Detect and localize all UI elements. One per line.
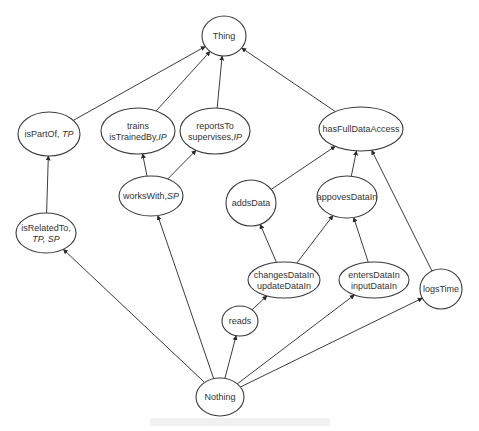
node-label: updateDataIn	[257, 281, 311, 291]
node-hasFullDataAccess: hasFullDataAccess	[319, 107, 403, 151]
node-label: logsTime	[423, 284, 459, 294]
node-label: TP, SP	[32, 234, 59, 244]
node-label: changesDataIn	[254, 270, 315, 280]
edge-changesDataIn-to-addsData	[260, 224, 276, 262]
node-label: addsData	[232, 198, 271, 208]
node-label: Thing	[213, 31, 236, 41]
node-entersDataIn: entersDataIninputDataIn	[339, 262, 409, 298]
node-label: worksWith,SP	[122, 191, 179, 201]
edge-reportsTo-to-thing	[217, 56, 222, 108]
node-label: appovesDataIn	[317, 192, 378, 202]
node-logsTime: logsTime	[420, 269, 462, 309]
edge-isRelatedTo-to-isPartOf	[47, 156, 49, 213]
node-reads: reads	[222, 306, 258, 336]
node-label: inputDataIn	[351, 281, 397, 291]
edge-appovesDataIn-to-hasFullDataAccess	[351, 151, 356, 176]
node-label: supervises,IP	[188, 132, 242, 142]
node-thing: Thing	[202, 16, 246, 56]
edge-trains-to-thing	[156, 51, 210, 111]
edge-nothing-to-reads	[225, 336, 236, 379]
figure-caption-faded	[150, 418, 330, 426]
node-isRelatedTo: isRelatedTo,TP, SP	[16, 213, 76, 253]
edge-worksWith-to-trains	[143, 154, 147, 176]
node-appovesDataIn: appovesDataIn	[317, 176, 378, 218]
node-label: isRelatedTo,	[21, 223, 71, 233]
node-addsData: addsData	[226, 180, 276, 226]
node-label: reportsTo	[196, 121, 234, 131]
edge-entersDataIn-to-appovesDataIn	[354, 217, 369, 262]
node-label: Nothing	[204, 392, 235, 402]
node-reportsTo: reportsTosupervises,IP	[180, 108, 250, 154]
node-changesDataIn: changesDataInupdateDataIn	[248, 262, 320, 298]
node-label: entersDataIn	[348, 270, 400, 280]
edge-hasFullDataAccess-to-thing	[242, 48, 336, 112]
edge-logsTime-to-hasFullDataAccess	[372, 150, 432, 271]
edge-worksWith-to-reportsTo	[168, 150, 196, 179]
nodes-layer: ThingisPartOf, TPtrainsisTrainedBy,IPrep…	[16, 16, 462, 416]
node-label: isTrainedBy,IP	[109, 132, 167, 142]
ontology-hierarchy-diagram: ThingisPartOf, TPtrainsisTrainedBy,IPrep…	[0, 0, 479, 431]
node-isPartOf: isPartOf, TP	[18, 112, 80, 156]
edge-nothing-to-isRelatedTo	[63, 249, 204, 382]
edge-nothing-to-worksWith	[158, 216, 214, 379]
edge-nothing-to-logsTime	[240, 298, 422, 387]
edge-reads-to-changesDataIn	[252, 296, 267, 310]
edge-changesDataIn-to-appovesDataIn	[297, 216, 333, 264]
node-label: isPartOf, TP	[24, 129, 73, 139]
node-nothing: Nothing	[196, 378, 244, 416]
node-label: reads	[229, 316, 252, 326]
node-trains: trainsisTrainedBy,IP	[101, 108, 175, 154]
node-worksWith: worksWith,SP	[119, 176, 183, 216]
node-label: hasFullDataAccess	[322, 124, 400, 134]
node-label: trains	[127, 121, 150, 131]
